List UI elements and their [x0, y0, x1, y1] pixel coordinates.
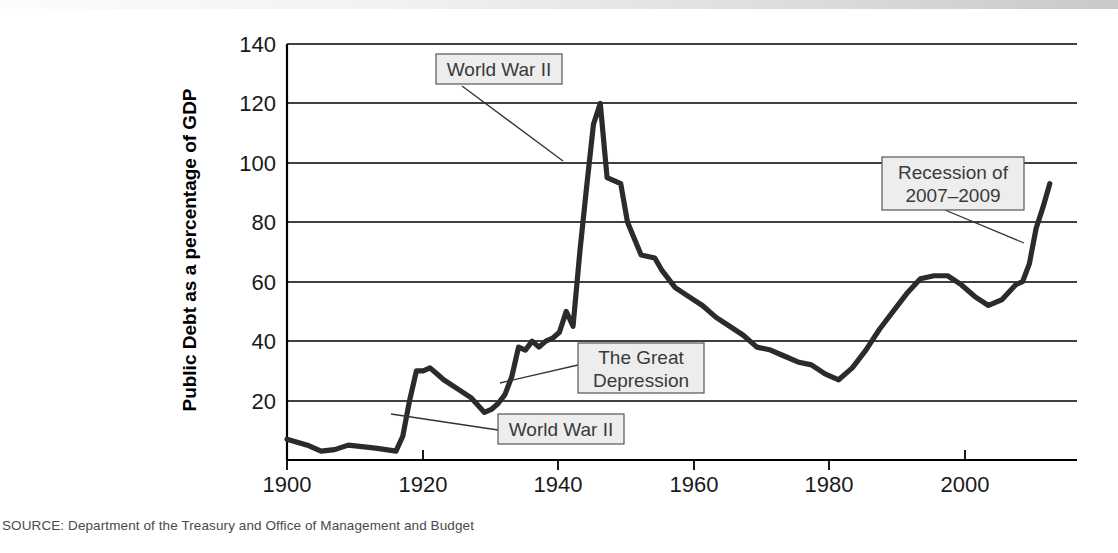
- x-axis-ticklabels: 1900 1920 1940 1960 1980 2000: [263, 472, 990, 497]
- annotation-0: World War II: [436, 54, 563, 161]
- x-tick-label-1960: 1960: [670, 472, 719, 497]
- y-tick-label-120: 120: [239, 91, 276, 116]
- x-tick-label-1920: 1920: [399, 472, 448, 497]
- annotation-1: The GreatDepression: [500, 343, 704, 393]
- public-debt-line-chart: 140 120 100 80 60 40 20 1900 1920 1940 1…: [0, 0, 1118, 500]
- annotation-layer: World War IIThe GreatDepressionWorld War…: [391, 54, 1024, 444]
- axes: [287, 44, 1077, 460]
- annotation-label: 2007–2009: [905, 185, 1000, 206]
- annotation-2: World War II: [391, 414, 624, 444]
- y-tick-label-40: 40: [252, 329, 276, 354]
- annotation-label: Depression: [593, 370, 689, 391]
- y-tick-label-80: 80: [252, 210, 276, 235]
- debt-gdp-series-line: [287, 103, 1050, 451]
- annotation-3: Recession of2007–2009: [882, 157, 1024, 243]
- annotation-label: The Great: [598, 347, 684, 368]
- annotation-leader-line: [462, 86, 563, 161]
- source-note: SOURCE: Department of the Treasury and O…: [2, 518, 474, 533]
- y-tick-label-100: 100: [239, 151, 276, 176]
- debt-gdp-figure: 140 120 100 80 60 40 20 1900 1920 1940 1…: [0, 0, 1118, 553]
- annotation-label: World War II: [509, 419, 614, 440]
- y-tick-label-20: 20: [252, 389, 276, 414]
- x-tick-label-1940: 1940: [534, 472, 583, 497]
- annotation-label: World War II: [447, 59, 552, 80]
- x-tick-label-1980: 1980: [805, 472, 854, 497]
- y-axis-title: Public Debt as a percentage of GDP: [179, 88, 200, 411]
- y-tick-label-60: 60: [252, 270, 276, 295]
- x-tick-label-2000: 2000: [941, 472, 990, 497]
- annotation-label: Recession of: [898, 162, 1009, 183]
- x-tick-label-1900: 1900: [263, 472, 312, 497]
- y-tick-label-140: 140: [239, 32, 276, 57]
- y-axis-ticklabels: 140 120 100 80 60 40 20: [239, 32, 276, 414]
- annotation-leader-line: [945, 210, 1024, 243]
